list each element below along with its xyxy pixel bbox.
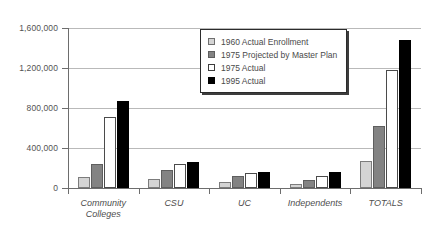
- bar: [91, 164, 103, 188]
- bar-group: [360, 28, 411, 188]
- bar: [148, 179, 160, 188]
- y-axis-tick-label: 1,200,000: [0, 63, 58, 73]
- y-axis-tick-label: 1,600,000: [0, 23, 58, 33]
- bar: [303, 180, 315, 188]
- bar: [117, 101, 129, 188]
- bar: [290, 184, 302, 189]
- x-axis-line: [62, 188, 421, 189]
- bar: [245, 173, 257, 188]
- bar: [373, 126, 385, 188]
- bar-group: [78, 28, 129, 188]
- legend-item-label: 1995 Actual: [221, 76, 265, 86]
- y-axis-tick-label: 0: [0, 183, 58, 193]
- bar: [360, 161, 372, 188]
- x-axis-tick: [421, 188, 422, 194]
- legend-item-label: 1975 Projected by Master Plan: [221, 50, 337, 60]
- legend-item-label: 1960 Actual Enrollment: [221, 37, 308, 47]
- legend-swatch-icon: [208, 38, 215, 45]
- x-axis-tick: [209, 188, 210, 194]
- legend-swatch-icon: [208, 51, 215, 58]
- chart-legend: 1960 Actual Enrollment 1975 Projected by…: [200, 29, 347, 93]
- legend-swatch-icon: [208, 77, 215, 84]
- legend-item: 1960 Actual Enrollment: [208, 35, 337, 48]
- x-axis-tick: [350, 188, 351, 194]
- x-axis-category-label: UC: [209, 198, 280, 209]
- x-axis-category-label: CSU: [139, 198, 210, 209]
- bar: [174, 164, 186, 188]
- bar: [399, 40, 411, 188]
- y-axis-tick-label: 800,000: [0, 103, 58, 113]
- x-axis-tick: [139, 188, 140, 194]
- bar: [187, 162, 199, 189]
- x-axis-category-label: Community Colleges: [68, 198, 139, 220]
- bar: [219, 182, 231, 189]
- y-axis-tick-label: 400,000: [0, 143, 58, 153]
- legend-item-label: 1975 Actual: [221, 63, 265, 73]
- legend-item: 1975 Actual: [208, 61, 337, 74]
- bar: [386, 70, 398, 188]
- legend-item: 1995 Actual: [208, 74, 337, 87]
- bar: [232, 176, 244, 189]
- bar: [329, 172, 341, 188]
- bar-group: [148, 28, 199, 188]
- bar: [104, 117, 116, 188]
- legend-swatch-icon: [208, 64, 215, 71]
- bar-chart: 0400,000800,0001,200,0001,600,000 Commun…: [0, 0, 433, 239]
- bar: [258, 172, 270, 188]
- x-axis-category-label: Independents: [280, 198, 351, 209]
- legend-item: 1975 Projected by Master Plan: [208, 48, 337, 61]
- x-axis-tick: [68, 188, 69, 194]
- bar: [78, 177, 90, 188]
- x-axis-tick: [280, 188, 281, 194]
- x-axis-category-label: TOTALS: [350, 198, 421, 209]
- bar: [316, 176, 328, 189]
- bar: [161, 170, 173, 189]
